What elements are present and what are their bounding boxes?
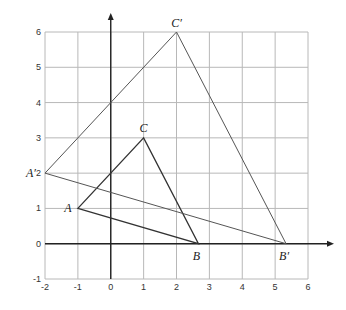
vertex-label: A [63,201,72,215]
y-axis-arrow-icon [108,13,114,20]
grid [45,32,308,279]
axes [45,13,334,279]
x-tick-label: 3 [207,282,212,292]
vertex-label: A′ [25,166,36,180]
x-tick-label: -1 [74,282,82,292]
vertex-label: B [193,249,201,263]
y-tick-label: 5 [36,62,41,72]
y-tick-label: 0 [36,239,41,249]
vertex-label: B′ [279,249,289,263]
x-tick-label: 0 [108,282,113,292]
x-tick-label: 2 [174,282,179,292]
tick-labels: -2-10123456-10123456 [33,27,311,292]
y-tick-label: 1 [36,203,41,213]
x-tick-label: 4 [240,282,245,292]
x-axis-arrow-icon [327,241,334,247]
x-tick-label: -2 [41,282,49,292]
y-tick-label: 2 [36,168,41,178]
dilation-diagram: -2-10123456-10123456 ABCA′B′C′ [0,0,346,310]
triangle-abc [78,138,199,244]
vertex-label: C [140,121,149,135]
y-tick-label: -1 [33,274,41,284]
x-tick-label: 1 [141,282,146,292]
y-tick-label: 6 [36,27,41,37]
vertex-label: C′ [171,16,182,30]
y-tick-label: 3 [36,133,41,143]
x-tick-label: 6 [305,282,310,292]
x-tick-label: 5 [273,282,278,292]
y-tick-label: 4 [36,98,41,108]
